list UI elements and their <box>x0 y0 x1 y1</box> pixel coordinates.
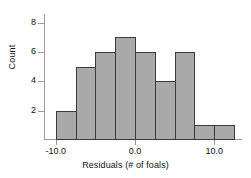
y-tick-label: 2 <box>16 106 36 115</box>
x-tick-label: 10.0 <box>191 146 237 156</box>
x-tick-mark <box>214 140 215 145</box>
histogram-bar <box>95 52 116 140</box>
x-tick-label: 0.0 <box>112 146 158 156</box>
y-tick-label: 6 <box>16 47 36 56</box>
plot-area <box>44 14 242 140</box>
histogram-figure: Count 2468 -10.00.010.0 Residuals (# of … <box>0 0 251 178</box>
x-axis-label: Residuals (# of foals) <box>0 160 251 170</box>
histogram-bar <box>214 125 235 140</box>
histogram-bar <box>155 81 176 140</box>
x-tick-label: -10.0 <box>33 146 79 156</box>
histogram-bar <box>56 111 77 140</box>
histogram-bar <box>135 52 156 140</box>
histogram-bar <box>76 67 97 140</box>
histogram-bar <box>175 52 196 140</box>
y-tick-label: 4 <box>16 76 36 85</box>
histogram-bar <box>194 125 215 140</box>
x-tick-mark <box>135 140 136 145</box>
x-tick-mark <box>56 140 57 145</box>
y-tick-label: 8 <box>16 18 36 27</box>
histogram-bar <box>115 37 136 140</box>
